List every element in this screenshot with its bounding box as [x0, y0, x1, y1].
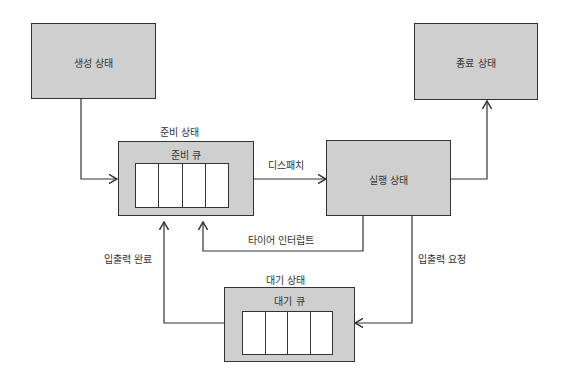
running-state-box: 실행 상태: [326, 140, 451, 216]
ready-state-box: 준비 큐: [118, 141, 254, 216]
ready-queue: [135, 163, 229, 208]
ready-state-title: 준비 상태: [160, 124, 199, 139]
queue-slot: [206, 164, 228, 207]
arrow-new-to-ready: [81, 98, 117, 179]
queue-slot: [159, 164, 182, 207]
running-state-label: 실행 상태: [327, 172, 450, 187]
queue-slot: [243, 312, 266, 354]
new-state-box: 생성 상태: [31, 23, 156, 99]
queue-slot: [288, 312, 311, 354]
arrow-io-complete: [164, 222, 224, 323]
queue-slot: [311, 312, 333, 354]
wait-queue-label: 대기 큐: [225, 293, 354, 308]
io-complete-label: 입출력 완료: [104, 251, 152, 266]
arrow-running-to-terminated: [450, 101, 487, 179]
ready-queue-label: 준비 큐: [119, 147, 253, 162]
waiting-state-box: 대기 큐: [224, 287, 355, 362]
wait-queue: [242, 311, 333, 355]
terminated-state-box: 종료 상태: [414, 23, 538, 100]
dispatch-label: 디스패치: [268, 157, 304, 172]
queue-slot: [183, 164, 206, 207]
terminated-state-label: 종료 상태: [415, 55, 537, 70]
timer-interrupt-label: 타이어 인터럽트: [248, 232, 314, 247]
io-request-label: 입출력 요청: [418, 251, 466, 266]
new-state-label: 생성 상태: [32, 55, 155, 70]
queue-slot: [266, 312, 289, 354]
queue-slot: [136, 164, 159, 207]
waiting-state-title: 대기 상태: [266, 272, 305, 287]
